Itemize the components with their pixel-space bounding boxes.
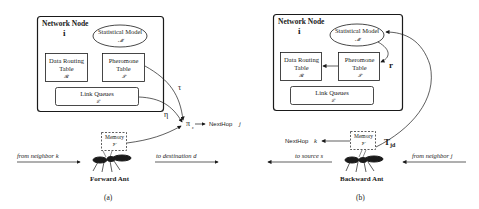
tjd-subscript: jd bbox=[390, 142, 395, 148]
pheromone-table-line1-a: Pheromone bbox=[103, 58, 144, 65]
node-title-a: Network Node bbox=[42, 20, 88, 28]
link-queues-label-b: Link Queues bbox=[291, 90, 373, 97]
statistical-model-label-a: Statistical Model bbox=[97, 29, 143, 36]
data-routing-table-symbol-b: 𝓡 bbox=[296, 74, 306, 79]
pheromone-table-line2-b: Table bbox=[339, 65, 380, 72]
data-routing-table-symbol-a: 𝓡 bbox=[61, 75, 71, 80]
statistical-model-label-b: Statistical Model bbox=[334, 28, 380, 35]
data-routing-table-line1-a: Data Routing bbox=[46, 58, 87, 65]
nexthop-var-a: j bbox=[239, 121, 241, 128]
to-destination-label: to destination d bbox=[156, 153, 196, 160]
pi-subscript: ε bbox=[192, 126, 194, 131]
link-queues-symbol-a: 𝓛 bbox=[92, 100, 102, 105]
memory-symbol-a: 𝓥 bbox=[109, 143, 119, 148]
eta-label: η bbox=[164, 111, 168, 119]
nexthop-var-b: k bbox=[314, 138, 317, 145]
node-index-b: i bbox=[298, 27, 301, 36]
data-routing-table-line2-a: Table bbox=[46, 66, 87, 73]
caption-b: (b) bbox=[356, 194, 365, 202]
memory-label-b: Memory bbox=[351, 134, 376, 140]
node-title-b: Network Node bbox=[278, 18, 324, 26]
pi-label: π bbox=[186, 120, 190, 128]
nexthop-label-a: NextHop bbox=[209, 121, 232, 127]
data-routing-table-line2-b: Table bbox=[281, 65, 322, 72]
backward-ant-icon bbox=[345, 150, 383, 172]
caption-a: (a) bbox=[104, 194, 112, 202]
pheromone-table-line1-b: Pheromone bbox=[339, 57, 380, 64]
statistical-model-symbol-a: 𝓜 bbox=[115, 39, 125, 44]
node-index-a: i bbox=[63, 29, 66, 38]
backward-ant-label: Backward Ant bbox=[340, 176, 383, 183]
memory-to-pi-arrow bbox=[127, 126, 181, 143]
data-routing-table-line1-b: Data Routing bbox=[281, 57, 322, 64]
link-queues-symbol-b: 𝓛 bbox=[327, 99, 337, 104]
memory-symbol-b: 𝓥 bbox=[358, 142, 368, 147]
from-neighbor-k-label: from neighbor k bbox=[17, 153, 59, 160]
from-neighbor-j-label: from neighbor j bbox=[412, 153, 453, 160]
forward-ant-icon bbox=[93, 151, 131, 172]
pheromone-table-symbol-b: 𝓣 bbox=[354, 74, 364, 79]
nexthop-label-b: NextHop bbox=[285, 138, 308, 144]
forward-ant-label: Forward Ant bbox=[90, 176, 129, 183]
link-queues-label-a: Link Queues bbox=[56, 91, 138, 98]
statistical-model-symbol-b: 𝓜 bbox=[352, 38, 362, 43]
pheromone-table-symbol-a: 𝓣 bbox=[118, 75, 128, 80]
tau-label: τ bbox=[178, 84, 181, 92]
r-label: r bbox=[389, 61, 393, 70]
diagram-canvas bbox=[0, 0, 479, 209]
to-source-label: to source s bbox=[295, 153, 323, 160]
tjd-arrow bbox=[376, 32, 431, 147]
eta-arrow bbox=[139, 97, 182, 122]
memory-label-a: Memory bbox=[102, 135, 127, 141]
pheromone-table-line2-a: Table bbox=[103, 66, 144, 73]
